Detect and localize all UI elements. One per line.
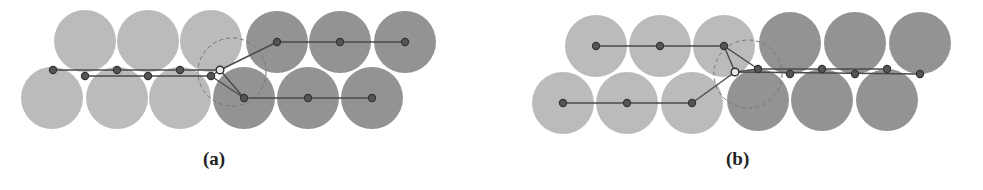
light-node <box>113 66 120 73</box>
dark-particle <box>727 69 789 131</box>
dark-node <box>786 70 793 77</box>
dark-node <box>818 65 825 72</box>
light-node <box>720 42 727 49</box>
junction-node <box>216 66 224 74</box>
junction-node <box>731 68 739 76</box>
light-node <box>49 66 56 73</box>
dark-particle <box>856 69 918 131</box>
light-node <box>81 72 88 79</box>
light-particle <box>54 10 116 72</box>
diagram-canvas <box>0 0 983 190</box>
dark-node <box>336 38 343 45</box>
light-particle <box>117 10 179 72</box>
caption-b: (b) <box>726 148 749 170</box>
light-node <box>688 99 695 106</box>
dark-node <box>368 94 375 101</box>
dark-particle <box>759 12 821 74</box>
dark-particle <box>791 69 853 131</box>
dark-particle <box>824 12 886 74</box>
light-particle <box>21 67 83 129</box>
dark-node <box>883 65 890 72</box>
dark-node <box>916 70 923 77</box>
dark-node <box>304 94 311 101</box>
dark-particle <box>889 12 951 74</box>
light-node <box>559 99 566 106</box>
dark-node <box>273 38 280 45</box>
light-node <box>656 42 663 49</box>
caption-a: (a) <box>203 148 225 170</box>
dark-node <box>240 94 247 101</box>
light-node <box>623 99 630 106</box>
dark-node <box>401 38 408 45</box>
light-particle <box>180 10 242 72</box>
panel-a <box>21 10 436 129</box>
panel-b <box>532 12 951 134</box>
dark-node <box>754 65 761 72</box>
light-node <box>592 42 599 49</box>
light-node <box>176 66 183 73</box>
light-node <box>207 72 214 79</box>
light-node <box>144 72 151 79</box>
dark-node <box>851 70 858 77</box>
